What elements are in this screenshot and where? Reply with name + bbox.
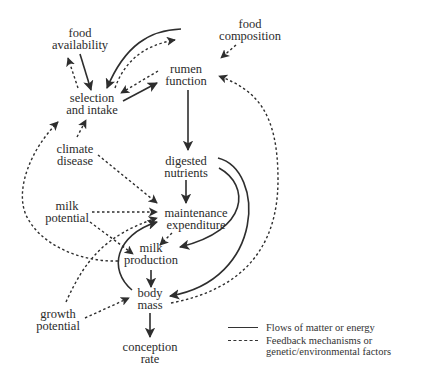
node-label-line: and intake bbox=[66, 104, 118, 116]
node-climate-disease: climatedisease bbox=[57, 143, 94, 167]
legend-item-feedback: Feedback mechanisms or genetic/environme… bbox=[228, 335, 391, 357]
node-label-line: potential bbox=[45, 212, 89, 224]
edge-rumen-function-to-selection-intake bbox=[121, 71, 158, 93]
node-label-line: nutrients bbox=[164, 167, 208, 179]
edge-climate-disease-to-selection-intake bbox=[77, 120, 86, 137]
node-milk-production: milkproduction bbox=[124, 242, 178, 266]
node-food-availability: foodavailability bbox=[52, 27, 108, 51]
legend: Flows of matter or energy Feedback mecha… bbox=[228, 322, 391, 357]
node-label-line: function bbox=[165, 75, 207, 87]
node-label-line: expenditure bbox=[164, 219, 227, 231]
node-label-line: composition bbox=[219, 30, 281, 42]
legend-item-flows: Flows of matter or energy bbox=[228, 322, 391, 333]
solid-line-icon bbox=[228, 327, 258, 328]
node-body-mass: bodymass bbox=[138, 287, 163, 311]
edge-selection-intake-to-food-availability bbox=[68, 58, 78, 88]
edge-growth-potential-to-body-mass bbox=[85, 298, 129, 318]
dashed-line-icon bbox=[228, 340, 258, 341]
edge-climate-disease-to-maintenance-expenditure bbox=[98, 155, 157, 203]
node-rumen-function: rumenfunction bbox=[165, 63, 207, 87]
node-digested-nutrients: digestednutrients bbox=[164, 155, 208, 179]
feeding-system-diagram: foodavailabilityfoodcompositionrumenfunc… bbox=[0, 0, 424, 380]
legend-label-flows: Flows of matter or energy bbox=[266, 322, 375, 333]
node-label-line: disease bbox=[57, 155, 94, 167]
node-label-line: production bbox=[124, 254, 178, 266]
node-food-composition: foodcomposition bbox=[219, 18, 281, 42]
node-label-line: potential bbox=[36, 320, 80, 332]
node-label-line: availability bbox=[52, 39, 108, 51]
node-label-line: mass bbox=[138, 299, 163, 311]
node-conception-rate: conceptionrate bbox=[123, 341, 178, 365]
node-milk-potential: milkpotential bbox=[45, 200, 89, 224]
edge-food-availability-to-selection-intake bbox=[80, 54, 91, 90]
node-selection-intake: selectionand intake bbox=[66, 92, 118, 116]
edge-selection-intake-to-rumen-function bbox=[123, 83, 157, 101]
node-growth-potential: growthpotential bbox=[36, 308, 80, 332]
legend-label-feedback: Feedback mechanisms or bbox=[266, 335, 372, 346]
node-maintenance-expenditure: maintenanceexpenditure bbox=[164, 207, 227, 231]
node-label-line: rate bbox=[123, 353, 178, 365]
edge-food-composition-to-rumen-function bbox=[221, 45, 236, 58]
legend-label-feedback-2: genetic/environmental factors bbox=[266, 346, 391, 357]
